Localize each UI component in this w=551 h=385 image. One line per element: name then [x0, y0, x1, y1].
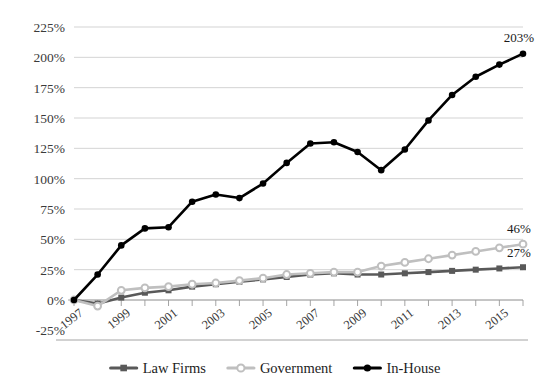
legend-label: In-House: [386, 360, 440, 376]
end-value-label: 46%: [507, 221, 531, 236]
y-tick-label: 200%: [34, 50, 66, 65]
chart-legend: Law FirmsGovernmentIn-House: [111, 360, 441, 376]
legend-label: Law Firms: [143, 360, 207, 376]
y-tick-label: 125%: [34, 141, 66, 156]
end-value-label: 203%: [504, 30, 535, 45]
y-tick-label: 50%: [40, 232, 65, 247]
y-tick-label: 75%: [40, 202, 65, 217]
chart-background: [0, 0, 551, 385]
y-tick-label: 25%: [40, 263, 65, 278]
y-tick-label: 175%: [34, 81, 66, 96]
y-tick-label: 225%: [34, 20, 66, 35]
y-tick-label: 100%: [34, 172, 66, 187]
y-tick-label: 0%: [47, 293, 65, 308]
line-chart: 225%200%175%150%125%100%75%50%25%0%-25% …: [0, 0, 551, 385]
end-value-label: 27%: [507, 245, 531, 260]
legend-label: Government: [260, 360, 332, 376]
y-tick-label: 150%: [34, 111, 66, 126]
